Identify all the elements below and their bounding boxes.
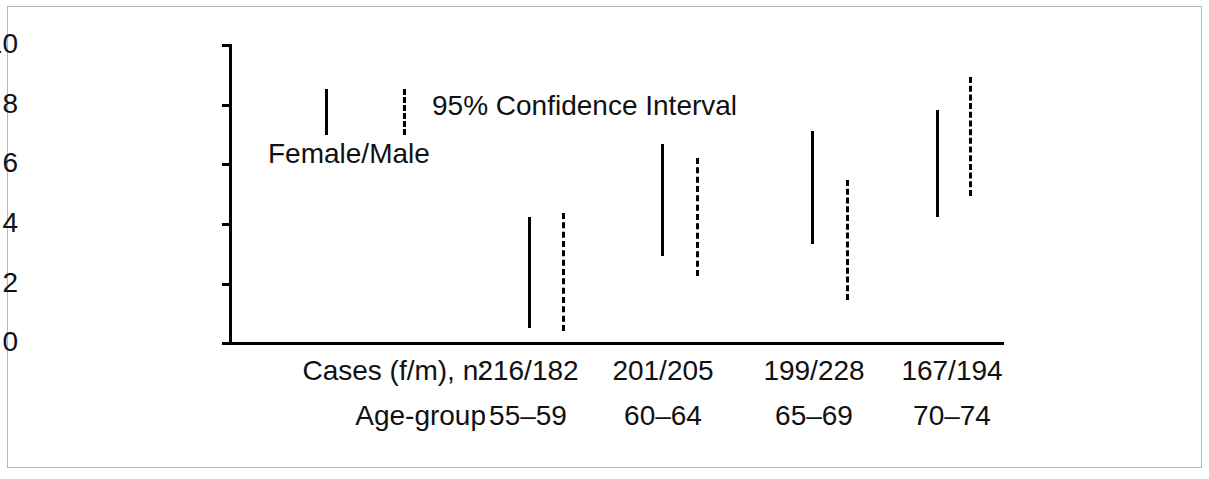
ci-bar-female-55-59 (528, 217, 531, 328)
y-tick-8 (222, 104, 230, 107)
figure-container: Intermittent Claudication (%) 0 2 4 6 8 … (0, 0, 1209, 479)
y-tick-0 (222, 342, 230, 345)
y-tick-6 (222, 163, 230, 166)
legend-confidence-interval-label: 95% Confidence Interval (432, 90, 737, 122)
agegroup-cell-3: 70–74 (872, 400, 1032, 432)
ci-bar-male-55-59 (562, 213, 565, 331)
cases-cell-1: 201/205 (583, 355, 743, 387)
y-tick-2 (222, 283, 230, 286)
cases-cell-3: 167/194 (872, 355, 1032, 387)
ci-bar-male-60-64 (696, 158, 699, 276)
ci-bar-female-60-64 (661, 144, 664, 256)
ci-bar-male-70-74 (969, 77, 972, 197)
ci-bar-female-70-74 (936, 110, 939, 218)
y-tick-10 (222, 44, 230, 47)
legend-male-sample-line (403, 89, 406, 135)
y-tick-4 (222, 223, 230, 226)
agegroup-cell-2: 65–69 (734, 400, 894, 432)
y-tick-label-8: 8 (0, 90, 18, 118)
x-axis-line (229, 342, 1004, 345)
legend-female-sample-line (325, 89, 328, 135)
cases-cell-2: 199/228 (734, 355, 894, 387)
y-tick-label-4: 4 (0, 209, 18, 237)
y-tick-label-6: 6 (0, 149, 18, 177)
y-tick-label-10: 10 (0, 30, 18, 58)
legend-female-male-label: Female/Male (268, 138, 430, 170)
chart-plot-area: Intermittent Claudication (%) 0 2 4 6 8 … (0, 0, 1209, 479)
y-tick-label-2: 2 (0, 269, 18, 297)
ci-bar-male-65-69 (846, 180, 849, 300)
y-tick-label-0: 0 (0, 328, 18, 356)
ci-bar-female-65-69 (811, 131, 814, 245)
y-axis-line (229, 44, 232, 345)
agegroup-cell-1: 60–64 (583, 400, 743, 432)
